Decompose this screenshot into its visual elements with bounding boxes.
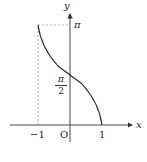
x-tick-one: 1 — [99, 130, 105, 140]
y-axis-label: y — [64, 1, 70, 11]
x-tick-neg-one: −1 — [30, 130, 45, 140]
pi-label: π — [74, 20, 81, 30]
pi-half-denominator: 2 — [55, 87, 67, 96]
pi-half-numerator: π — [55, 75, 67, 84]
x-axis-label: x — [136, 120, 142, 130]
pi-half-label: π 2 — [55, 75, 67, 96]
origin-label: O — [60, 130, 68, 140]
